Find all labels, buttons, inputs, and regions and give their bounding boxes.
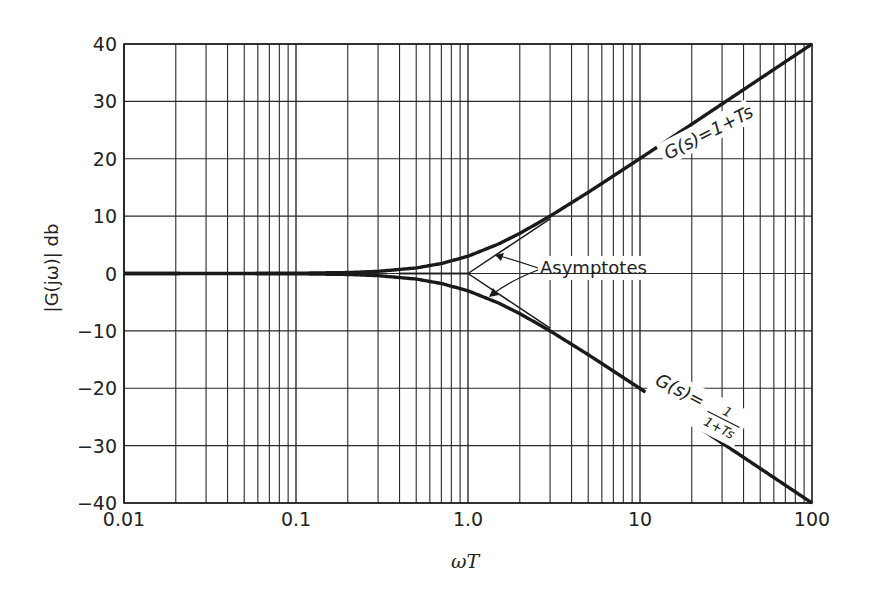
- upper-curve-label: G(s)=1+Ts: [656, 99, 757, 166]
- upper-curve-label-text: G(s)=1+Ts: [660, 101, 756, 164]
- asymptotes-label: Asymptotes: [540, 257, 647, 278]
- y-tick-label: −10: [77, 320, 117, 342]
- y-tick-label: 10: [93, 205, 117, 227]
- y-tick-label: 30: [93, 90, 117, 112]
- y-axis-title: |G(jω)| db: [41, 224, 62, 313]
- lower-curve-label: G(s)= 1 1+Ts: [641, 365, 752, 448]
- y-tick-label: 0: [105, 263, 117, 285]
- y-tick-label: 20: [93, 148, 117, 170]
- asymptote-line: [468, 274, 550, 329]
- x-tick-label: 10: [628, 508, 652, 530]
- x-axis-title: ωT: [451, 550, 480, 572]
- x-tick-label: 1.0: [453, 508, 483, 530]
- arrow-upper: [500, 256, 538, 268]
- x-tick-label: 100: [794, 508, 830, 530]
- y-tick-label: 40: [93, 33, 117, 55]
- x-tick-labels: 0.010.11.010100: [103, 508, 830, 530]
- bode-magnitude-chart: 0.010.11.010100 403020100−10−20−30−40 ωT…: [0, 0, 873, 589]
- x-tick-label: 0.1: [281, 508, 311, 530]
- y-tick-label: −40: [77, 492, 117, 514]
- y-tick-label: −30: [77, 435, 117, 457]
- y-tick-labels: 403020100−10−20−30−40: [77, 33, 117, 514]
- y-tick-label: −20: [77, 377, 117, 399]
